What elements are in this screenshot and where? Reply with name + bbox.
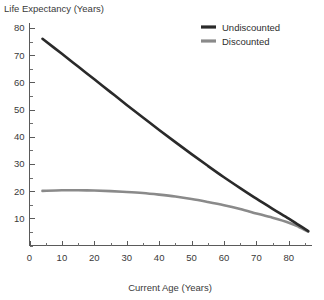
x-axis-tick-labels: 01020304050607080 [27,252,294,263]
y-tick-label: 70 [14,50,25,61]
x-tick-label: 20 [89,252,100,263]
y-tick-label: 30 [14,158,25,169]
x-tick-label: 60 [219,252,230,263]
x-tick-label: 40 [154,252,165,263]
x-tick-label: 70 [251,252,262,263]
y-tick-label: 10 [14,213,25,224]
legend-label-undiscounted: Undiscounted [222,22,280,33]
x-axis-title: Current Age (Years) [128,282,212,293]
legend-label-discounted: Discounted [222,36,270,47]
x-tick-label: 30 [121,252,132,263]
x-tick-label: 80 [284,252,295,263]
x-tick-label: 50 [186,252,197,263]
y-tick-label: 50 [14,104,25,115]
x-tick-label: 0 [27,252,32,263]
y-tick-label: 20 [14,186,25,197]
chart-figure: Life Expectancy (Years) 1020304050607080… [0,0,324,300]
y-tick-label: 60 [14,77,25,88]
y-tick-label: 80 [14,22,25,33]
y-tick-label: 40 [14,131,25,142]
x-tick-label: 10 [57,252,68,263]
y-axis-title: Life Expectancy (Years) [4,3,104,14]
